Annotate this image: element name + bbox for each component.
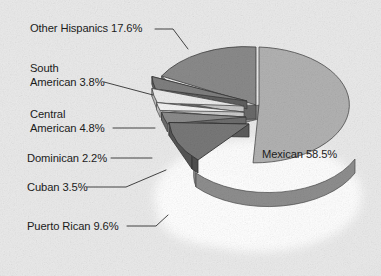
label-dominican: Dominican 2.2%: [27, 152, 107, 165]
label-other-hispanics: Other Hispanics 17.6%: [30, 22, 142, 35]
label-mexican: Mexican 58.5%: [262, 148, 337, 161]
leader-cuban: [87, 170, 166, 187]
pie-chart-figure: Other Hispanics 17.6% South American 3.8…: [0, 0, 381, 276]
label-south-american-line1: South: [30, 62, 59, 75]
label-south-american-line2: American 3.8%: [30, 76, 105, 89]
pie-chart-canvas: [0, 0, 381, 276]
label-central-american-line1: Central: [30, 108, 65, 121]
label-puerto-rican: Puerto Rican 9.6%: [27, 220, 119, 233]
leader-south-american: [104, 82, 153, 95]
leader-other-hispanics: [155, 29, 188, 49]
label-cuban: Cuban 3.5%: [27, 181, 88, 194]
label-central-american-line2: American 4.8%: [30, 122, 105, 135]
